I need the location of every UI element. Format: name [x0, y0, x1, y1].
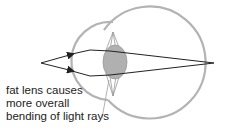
ray-upper-incoming: [41, 54, 73, 63]
ray-upper-segment: [72, 50, 90, 54]
caption-line-3: bending of light rays: [6, 110, 109, 123]
ray-lower-incoming: [41, 63, 73, 71]
caption-line-1: fat lens causes: [6, 84, 109, 97]
caption: fat lens causes more overall bending of …: [6, 84, 109, 123]
caption-line-2: more overall: [6, 97, 109, 110]
